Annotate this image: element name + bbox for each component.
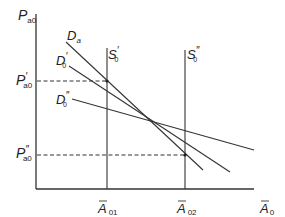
demand-curve-d0-prime xyxy=(69,66,230,172)
curve-label-s0-prime: S′0 xyxy=(108,45,120,63)
equilibrium-point-1 xyxy=(105,79,108,82)
demand-curve-d0-double-prime xyxy=(72,99,254,150)
svg-text:A01: A01 xyxy=(97,201,118,217)
equilibrium-point-2 xyxy=(183,153,186,156)
y-axis-label: Pa0 xyxy=(18,7,37,25)
x-tick-a01: A01 xyxy=(97,201,118,217)
demand-curve-da xyxy=(66,42,203,170)
curve-label-d0-double-prime: D″0 xyxy=(56,90,69,108)
y-tick-p-a0-double-prime: P″a0 xyxy=(16,144,32,163)
x-axis-label: A0 xyxy=(259,201,275,217)
svg-text:A02: A02 xyxy=(176,201,197,217)
x-tick-a02: A02 xyxy=(176,201,197,217)
curve-label-da: Da xyxy=(67,28,81,45)
y-tick-p-a0-prime: P′a0 xyxy=(16,71,33,90)
curve-label-s0-double-prime: S″0 xyxy=(187,45,200,63)
supply-demand-diagram: Pa0 P′a0 P″a0 Da D′0 D″0 S′0 S″0 A01 A02… xyxy=(0,0,285,217)
svg-text:A0: A0 xyxy=(259,201,275,217)
curve-label-d0-prime: D′0 xyxy=(56,51,68,69)
